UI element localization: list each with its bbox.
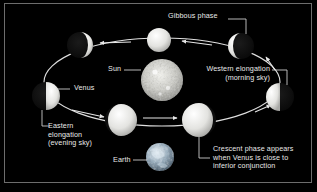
label-venus: Venus	[74, 84, 94, 93]
earth-body	[146, 143, 174, 171]
venus-phase-bottom-right-crescent	[182, 103, 216, 137]
label-earth: Earth	[113, 156, 131, 165]
venus-phases-figure: Gibbous phase Sun Western elongation (mo…	[0, 0, 317, 192]
leader-line-icon	[228, 19, 246, 34]
label-western-elongation-line2: (morning sky)	[178, 74, 270, 83]
leader-line-icon	[199, 137, 210, 158]
venus-phase-bottom-left-crescent	[105, 104, 137, 136]
label-sun: Sun	[108, 65, 121, 74]
venus-phase-right-half	[266, 83, 294, 111]
venus-phase-top-full	[147, 28, 171, 52]
venus-phase-upper-left-gibbous	[67, 32, 93, 58]
label-crescent-line3: inferior conjunction	[213, 162, 275, 171]
venus-phase-upper-right-gibbous	[228, 33, 254, 59]
label-eastern-elongation-line3: (evening sky)	[48, 139, 92, 148]
label-gibbous-phase: Gibbous phase	[168, 12, 218, 21]
sun-body	[141, 59, 183, 101]
venus-phase-left-half	[32, 82, 60, 110]
arrow-icon	[100, 42, 131, 43]
